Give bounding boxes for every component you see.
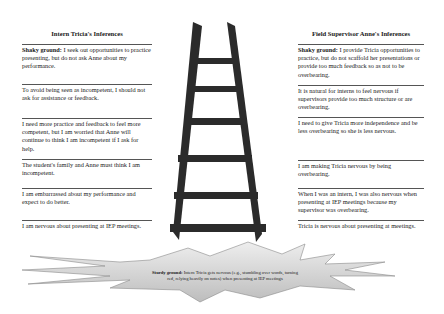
shaky-ground-label: Shaky ground: [22,46,62,53]
supervisor-column-title: Field Supervisor Anne's Inferences [298,30,424,37]
supervisor-inference-3: I need to give Tricia more independence … [298,117,424,135]
intern-inference-2: To avoid being seen as incompetent, I sh… [22,84,152,102]
supervisor-inference-6: Tricia is nervous about presenting at me… [298,220,424,230]
intern-inference-4: The student's family and Anne must think… [22,159,152,177]
inference-text: The student's family and Anne must think… [22,161,140,176]
inference-text: It is natural for interns to feel nervou… [298,87,412,110]
intern-inference-5: I am embarrassed about my performance an… [22,188,152,206]
supervisor-inference-2: It is natural for interns to feel nervou… [298,85,424,112]
shaky-ground-label: Shaky ground: [298,46,338,53]
inference-text: I am embarrassed about my performance an… [22,190,136,205]
intern-inference-6: I am nervous about presenting at IEP mee… [22,220,152,230]
intern-column-title: Intern Tricia's Inferences [22,30,152,37]
sturdy-ground-description: Intern Tricia gets nervous (e.g., stumbl… [167,270,298,281]
inference-text: I am nervous about presenting at IEP mee… [22,222,141,229]
supervisor-inference-1: Shaky ground: I provide Tricia opportuni… [298,44,424,79]
inference-text: Tricia is nervous about presenting at me… [298,222,415,229]
inference-text: To avoid being seen as incompetent, I sh… [22,86,145,101]
intern-inference-3: I need more practice and feedback to fee… [22,118,152,153]
inference-text: I am making Tricia nervous by being over… [298,162,391,177]
inference-text: I need to give Tricia more independence … [298,119,418,134]
ladder-icon [170,18,276,243]
intern-inference-1: Shaky ground: I seek out opportunities t… [22,44,152,71]
sturdy-ground-label: Sturdy ground: [152,270,182,275]
supervisor-inference-5: When I was an intern, I was also nervous… [298,188,424,215]
sturdy-ground-text: Sturdy ground: Intern Tricia gets nervou… [150,270,300,282]
inference-text: When I was an intern, I was also nervous… [298,190,417,213]
inference-text: I need more practice and feedback to fee… [22,120,141,152]
supervisor-inference-4: I am making Tricia nervous by being over… [298,160,424,178]
